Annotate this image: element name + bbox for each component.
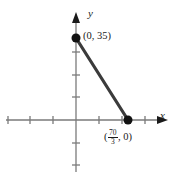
point-label-x-intercept: (703, 0) [104,129,132,146]
paren-open: ( [104,131,108,142]
fraction-numerator: 70 [108,129,118,137]
fraction-denominator: 3 [110,138,116,146]
point-label-y-intercept: (0, 35) [83,31,111,42]
fraction-seventy-thirds: 703 [108,129,118,146]
graph-figure: y x (0, 35) (703, 0) [0,0,173,175]
line-segment [76,38,128,120]
y-axis-arrowhead-icon [72,12,80,23]
paren-close-and-zero: , 0) [118,131,132,142]
point-marker-x-intercept [124,116,133,125]
x-axis-label: x [160,110,165,121]
coordinate-plane [0,0,173,175]
point-marker-y-intercept [72,34,81,43]
y-axis-label: y [88,8,93,19]
